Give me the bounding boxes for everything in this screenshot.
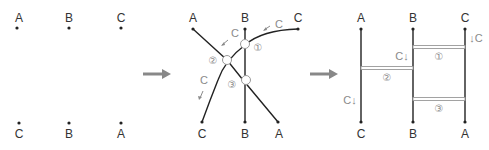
top-label-c: C — [294, 11, 303, 25]
bottom-label-a: A — [117, 127, 125, 141]
top-label-b: B — [65, 11, 73, 25]
arrow-right-icon — [143, 69, 171, 79]
top-label-b: B — [409, 11, 417, 25]
bottom-label-b: B — [409, 127, 417, 141]
flow-label-c-a: C↓ — [343, 94, 356, 106]
flow-label-c-b: C↓ — [395, 50, 408, 62]
rung-1 — [413, 46, 465, 49]
amidakuji-diagram: A B C C B A A B C ① — [0, 0, 489, 150]
top-dot-b — [67, 26, 70, 29]
rung-number-2: ② — [383, 72, 392, 83]
bottom-label-c: C — [15, 127, 24, 141]
bottom-dot-a — [119, 121, 122, 124]
crossing-1 — [241, 40, 250, 49]
flow-label-c-3: C — [200, 74, 208, 86]
crossing-number-2: ② — [209, 55, 218, 66]
crossing-number-1: ① — [254, 42, 263, 53]
rung-number-3: ③ — [435, 103, 444, 114]
bottom-label-a: A — [275, 127, 283, 141]
top-label-a: A — [189, 11, 197, 25]
top-label-a: A — [357, 11, 365, 25]
top-dot-a — [15, 26, 18, 29]
top-label-c: C — [461, 11, 470, 25]
bottom-label-c: C — [198, 127, 207, 141]
bottom-dot-c — [17, 121, 20, 124]
arrow-right-icon — [310, 69, 338, 79]
panel-ladder: A B C ① ② ③ C↓ C↓ ↓C C B A — [343, 11, 483, 141]
crossing-number-3: ③ — [228, 79, 237, 90]
rung-number-1: ① — [435, 51, 444, 62]
crossing-2 — [223, 56, 232, 65]
flow-label-c-c: ↓C — [469, 32, 483, 44]
bottom-dot-b — [67, 121, 70, 124]
top-label-b: B — [241, 11, 249, 25]
crossing-3 — [242, 76, 251, 85]
panel-crossings: A B C ① ② ③ C C C C B A — [189, 11, 303, 141]
bottom-label-a: A — [461, 127, 469, 141]
top-dot-c — [119, 26, 122, 29]
rung-2 — [361, 67, 413, 70]
flow-label-c-1: C — [275, 18, 283, 30]
panel-initial: A B C C B A — [15, 11, 126, 141]
bottom-label-b: B — [65, 127, 73, 141]
bottom-label-c: C — [357, 127, 366, 141]
rung-3 — [413, 98, 465, 101]
bottom-label-b: B — [241, 127, 249, 141]
top-label-c: C — [117, 11, 126, 25]
flow-label-c-2: C — [231, 27, 239, 39]
top-label-a: A — [15, 11, 23, 25]
